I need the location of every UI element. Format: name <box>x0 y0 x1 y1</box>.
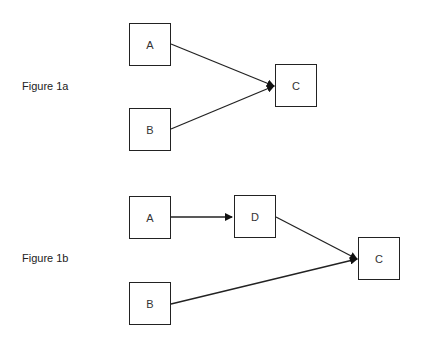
edge-1a-a-c <box>171 44 274 86</box>
figure-1b-node-d: D <box>234 195 276 238</box>
figure-1a-node-a: A <box>129 23 171 66</box>
figure-1b-node-a: A <box>129 196 171 239</box>
figure-1b-node-c: C <box>358 237 400 280</box>
figure-1a-node-c: C <box>275 64 317 107</box>
edge-1b-d-c <box>276 217 357 259</box>
figure-1a-node-b: B <box>129 108 171 151</box>
figure-1b-node-b: B <box>129 282 171 325</box>
figure-1b-label: Figure 1b <box>22 252 68 264</box>
figure-1a-label: Figure 1a <box>22 80 68 92</box>
edge-1a-b-c <box>171 86 274 129</box>
edge-1b-b-c <box>171 259 357 304</box>
edges-layer <box>0 0 423 342</box>
